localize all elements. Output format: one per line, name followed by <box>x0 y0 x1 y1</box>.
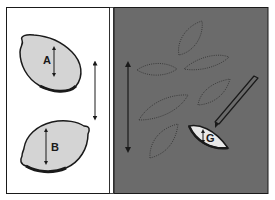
seed-b-label: B <box>51 141 59 153</box>
panel-divider <box>110 8 114 194</box>
seed-a-label: A <box>43 54 51 66</box>
diagram-figure: A B G <box>0 0 275 200</box>
diagram-canvas: A B G <box>0 0 275 200</box>
leaf-g-label: G <box>206 132 215 144</box>
right-panel <box>114 8 268 194</box>
